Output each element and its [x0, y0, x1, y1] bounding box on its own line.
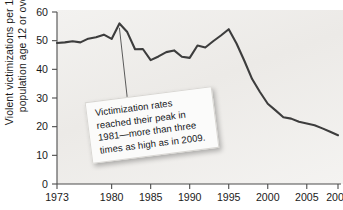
y-axis-ticks: 0102030405060 — [36, 6, 57, 190]
x-tick-label: 2009 — [326, 191, 343, 203]
x-tick-label: 2005 — [295, 191, 319, 203]
y-tick-label: 30 — [36, 92, 48, 104]
y-tick-label: 0 — [42, 178, 48, 190]
annotation-text: Victimization rates reached their peak i… — [94, 93, 210, 157]
x-tick-label: 1985 — [139, 191, 163, 203]
x-tick-label: 1980 — [100, 191, 124, 203]
y-tick-label: 10 — [36, 149, 48, 161]
x-axis-ticks: 19731980198519901995200020052009 — [45, 184, 343, 203]
y-tick-label: 20 — [36, 120, 48, 132]
x-tick-label: 1995 — [217, 191, 241, 203]
x-tick-label: 1990 — [178, 191, 202, 203]
x-tick-label: 1973 — [45, 191, 69, 203]
y-tick-label: 40 — [36, 63, 48, 75]
x-tick-label: 2000 — [256, 191, 280, 203]
y-tick-label: 60 — [36, 6, 48, 18]
y-tick-label: 50 — [36, 34, 48, 46]
chart-figure: Violent victimizations per 1,000 populat… — [0, 0, 343, 210]
